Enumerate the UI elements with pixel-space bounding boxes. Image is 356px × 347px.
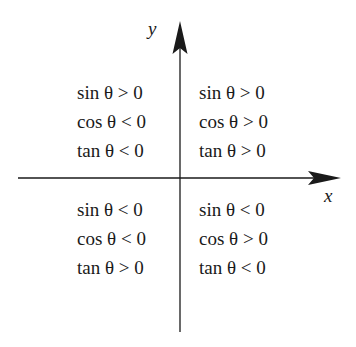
quadrant-IV: sin θ < 0 cos θ > 0 tan θ < 0 (199, 195, 268, 282)
quadrant-IV-tan: tan θ < 0 (199, 253, 268, 282)
quadrant-II-cos: cos θ < 0 (77, 107, 146, 136)
quadrant-IV-cos: cos θ > 0 (199, 224, 268, 253)
quadrant-II-tan: tan θ < 0 (77, 136, 146, 165)
y-axis-label: y (148, 19, 156, 38)
quadrant-III-sin: sin θ < 0 (77, 195, 146, 224)
quadrant-III-cos: cos θ < 0 (77, 224, 146, 253)
quadrant-II-sin: sin θ > 0 (77, 78, 146, 107)
x-axis-label: x (324, 186, 332, 205)
quadrant-I-tan: tan θ > 0 (199, 136, 268, 165)
quadrant-III: sin θ < 0 cos θ < 0 tan θ > 0 (77, 195, 146, 282)
quadrant-II: sin θ > 0 cos θ < 0 tan θ < 0 (77, 78, 146, 165)
quadrant-I: sin θ > 0 cos θ > 0 tan θ > 0 (199, 78, 268, 165)
quadrant-IV-sin: sin θ < 0 (199, 195, 268, 224)
quadrant-III-tan: tan θ > 0 (77, 253, 146, 282)
coordinate-axes (0, 0, 356, 347)
quadrant-I-sin: sin θ > 0 (199, 78, 268, 107)
quadrant-I-cos: cos θ > 0 (199, 107, 268, 136)
